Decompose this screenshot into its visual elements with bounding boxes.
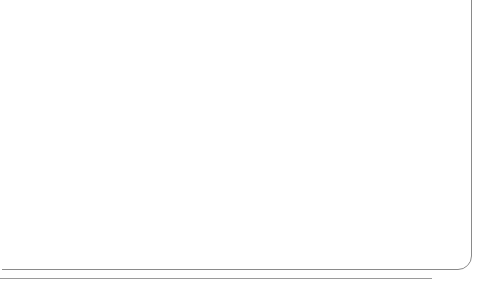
- y-tick-label-2.0-left: 2.0: [22, 128, 56, 143]
- y-tick-label-3.0-right: 3.0: [241, 76, 275, 91]
- x-axis-line-right: [280, 241, 435, 243]
- y-axis-line-left: [61, 78, 63, 242]
- frame-mask-left: [0, 0, 2, 272]
- y-tick-label-2.0-right: 2.0: [241, 128, 275, 143]
- gridline-3.0-left: [62, 83, 214, 84]
- y-axis-line-right: [280, 78, 282, 242]
- gridline-1.0-left: [62, 187, 214, 188]
- category-label-no-choice: No choice: [280, 245, 435, 259]
- figure-bottom-rule: [0, 278, 432, 280]
- bar-fill-no-choice-low-incentive: [315, 156, 334, 241]
- y-tick-label-3.0-left: 3.0: [22, 76, 56, 91]
- x-axis-line-left: [61, 241, 214, 243]
- panel-choice: 3.0 2.0 1.0 Choice: [0, 0, 240, 284]
- category-label-choice: Choice: [61, 245, 214, 259]
- bar-fill-choice-high-incentive: [150, 158, 169, 241]
- chart-figure: Low incentive (high dissonance) High inc…: [0, 0, 480, 284]
- panel-no-choice: 3.0 2.0 1.0 No choice: [240, 0, 480, 284]
- gridline-2.0-right: [281, 135, 435, 136]
- bar-fill-choice-low-incentive: [97, 86, 117, 241]
- bar-fill-no-choice-high-incentive: [366, 121, 384, 241]
- bar-no-choice-low-incentive: [315, 156, 334, 241]
- y-tick-label-1.0-left: 1.0: [22, 180, 56, 195]
- gridline-2.0-left: [62, 135, 214, 136]
- bar-choice-low-incentive: [97, 86, 117, 241]
- gridline-3.0-right: [281, 83, 435, 84]
- gridline-1.0-right: [281, 187, 435, 188]
- bar-choice-high-incentive: [150, 158, 169, 241]
- y-tick-label-1.0-right: 1.0: [241, 180, 275, 195]
- bar-no-choice-high-incentive: [366, 121, 384, 241]
